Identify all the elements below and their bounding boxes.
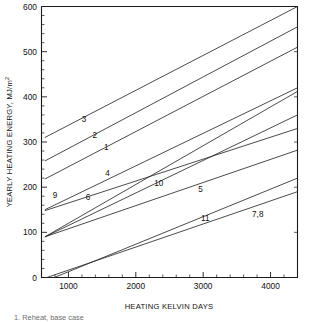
y-tick-label: 500 bbox=[23, 47, 37, 57]
chart-svg: 01002003004005006001000200030004000 3214… bbox=[0, 0, 310, 322]
curve-label-9: 9 bbox=[53, 191, 58, 200]
data-curves bbox=[45, 7, 298, 278]
curve-label-11: 11 bbox=[201, 214, 210, 223]
x-tick-label: 2000 bbox=[126, 281, 145, 291]
curve-label-5: 5 bbox=[198, 185, 203, 194]
x-tick-label: 3000 bbox=[194, 281, 213, 291]
axis-ticks: 01002003004005006001000200030004000 bbox=[23, 2, 297, 292]
curve-label-2: 2 bbox=[92, 131, 97, 140]
curve-labels: 321496105117,8 bbox=[53, 115, 264, 223]
y-tick-label: 0 bbox=[32, 273, 37, 283]
y-tick-label: 400 bbox=[23, 92, 37, 102]
curve-4 bbox=[45, 88, 298, 210]
y-tick-label: 300 bbox=[23, 137, 37, 147]
curve-label-3: 3 bbox=[82, 115, 87, 124]
curve-label-1: 1 bbox=[104, 143, 109, 152]
y-axis-title-group: YEARLY HEATING ENERGY, MJ/m2 bbox=[4, 77, 14, 208]
x-tick-label: 4000 bbox=[261, 281, 280, 291]
curve-label-6: 6 bbox=[86, 193, 91, 202]
y-axis-title: YEARLY HEATING ENERGY, MJ/m2 bbox=[4, 77, 14, 208]
curve-label-10: 10 bbox=[154, 179, 164, 188]
y-tick-label: 100 bbox=[23, 227, 37, 237]
y-tick-label: 200 bbox=[23, 182, 37, 192]
curve-label-4: 4 bbox=[105, 169, 110, 178]
figure-caption-item-1: 1. Reheat, base case bbox=[14, 313, 304, 322]
y-tick-label: 600 bbox=[23, 2, 37, 12]
x-tick-label: 1000 bbox=[59, 281, 78, 291]
chart-figure: 01002003004005006001000200030004000 3214… bbox=[0, 0, 310, 322]
curve-label-7-8: 7,8 bbox=[252, 210, 264, 219]
curve-7-8 bbox=[47, 192, 298, 278]
x-axis-title: HEATING KELVIN DAYS bbox=[125, 302, 214, 311]
